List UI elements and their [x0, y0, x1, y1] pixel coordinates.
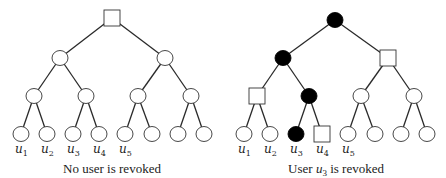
- open-circle-node-icon: [130, 89, 146, 104]
- leaf-label-u4: u4: [93, 142, 106, 158]
- open-square-node-icon: [104, 10, 120, 26]
- leaf-label-u3: u3: [290, 142, 303, 158]
- leaf-label-u3: u3: [67, 142, 80, 158]
- open-circle-node-icon: [117, 127, 133, 142]
- revocation-tree-diagram: u1u2u3u4u5 u1u2u3u4u5 No user is revoked…: [0, 0, 446, 178]
- open-circle-node-icon: [52, 51, 68, 66]
- open-circle-node-icon: [393, 127, 409, 142]
- leaf-label-u2: u2: [41, 142, 54, 158]
- open-square-node-icon: [249, 88, 265, 104]
- open-circle-node-icon: [170, 127, 186, 142]
- open-circle-node-icon: [157, 51, 173, 66]
- open-circle-node-icon: [39, 127, 55, 142]
- filled-circle-node-icon: [301, 89, 317, 104]
- open-circle-node-icon: [26, 89, 42, 104]
- tree-edge: [283, 20, 335, 58]
- open-circle-node-icon: [406, 89, 422, 104]
- open-circle-node-icon: [236, 127, 252, 142]
- right-tree: u1u2u3u4u5: [236, 13, 435, 159]
- filled-circle-node-icon: [275, 51, 291, 66]
- open-square-node-icon: [380, 50, 396, 66]
- leaf-label-u1: u1: [15, 142, 28, 158]
- right-caption: User u3 is revoked: [288, 161, 384, 178]
- left-caption: No user is revoked: [63, 161, 161, 176]
- open-circle-node-icon: [78, 89, 94, 104]
- open-square-node-icon: [314, 126, 330, 142]
- open-circle-node-icon: [183, 89, 199, 104]
- filled-circle-node-icon: [288, 127, 304, 142]
- open-circle-node-icon: [419, 127, 435, 142]
- open-circle-node-icon: [65, 127, 81, 142]
- leaf-label-u5: u5: [119, 142, 132, 158]
- open-circle-node-icon: [13, 127, 29, 142]
- leaf-label-u1: u1: [238, 142, 251, 158]
- open-circle-node-icon: [340, 127, 356, 142]
- open-circle-node-icon: [262, 127, 278, 142]
- filled-circle-node-icon: [327, 13, 343, 28]
- open-circle-node-icon: [91, 127, 107, 142]
- leaf-label-u2: u2: [264, 142, 277, 158]
- leaf-label-u5: u5: [342, 142, 355, 158]
- left-tree: u1u2u3u4u5: [13, 10, 212, 158]
- open-circle-node-icon: [144, 127, 160, 142]
- open-circle-node-icon: [196, 127, 212, 142]
- open-circle-node-icon: [367, 127, 383, 142]
- open-circle-node-icon: [353, 89, 369, 104]
- leaf-label-u4: u4: [316, 142, 329, 158]
